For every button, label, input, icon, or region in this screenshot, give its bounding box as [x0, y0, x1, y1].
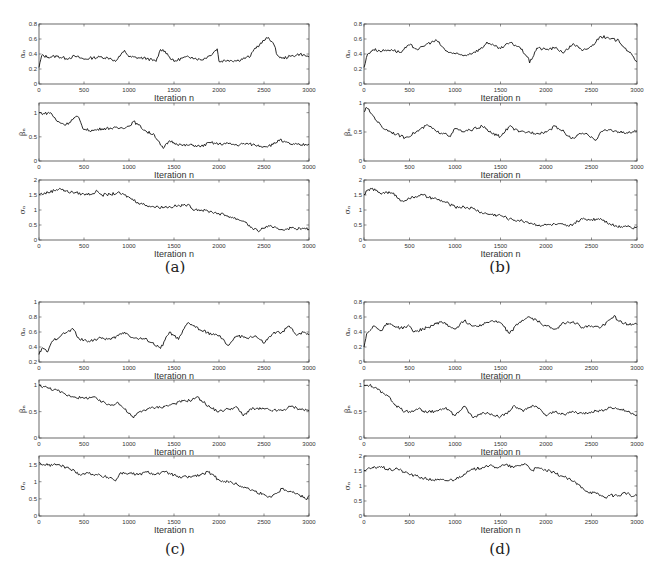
axes-box — [39, 302, 309, 362]
y-axis-label: αₙ — [343, 327, 352, 336]
y-tick-label: 1 — [34, 479, 38, 485]
y-tick-label: 1 — [34, 110, 38, 116]
x-tick-label: 500 — [79, 519, 90, 525]
y-tick-label: 0.5 — [354, 409, 363, 415]
x-tick-label: 3000 — [630, 519, 644, 525]
x-tick-label: 0 — [362, 164, 366, 170]
x-tick-label: 0 — [362, 243, 366, 249]
x-tick-label: 2500 — [257, 519, 271, 525]
x-tick-label: 3000 — [630, 365, 644, 371]
x-axis-label: Iteration n — [154, 170, 194, 180]
y-tick-label: 0.6 — [354, 36, 363, 42]
y-tick-label: 0.2 — [354, 344, 363, 350]
y-tick-label: 0.5 — [29, 222, 38, 228]
x-tick-label: 2000 — [212, 243, 226, 249]
x-tick-label: 0 — [362, 441, 366, 447]
x-tick-label: 2000 — [539, 441, 553, 447]
y-tick-label: 0.8 — [29, 314, 38, 320]
caption-c: (c) — [145, 540, 205, 558]
x-tick-label: 2000 — [212, 164, 226, 170]
y-tick-label: 1 — [359, 483, 363, 489]
x-tick-label: 1000 — [448, 164, 462, 170]
x-tick-label: 3000 — [630, 243, 644, 249]
y-tick-label: 0.8 — [354, 299, 363, 305]
x-tick-label: 2500 — [585, 441, 599, 447]
axes-box — [39, 103, 309, 161]
y-axis-label: σₙ — [343, 481, 352, 490]
x-tick-label: 500 — [79, 87, 90, 93]
axes-box — [39, 456, 309, 516]
y-tick-label: 0.8 — [29, 21, 38, 27]
y-tick-label: 0.2 — [354, 66, 363, 72]
subplot-c-2: 05001000150020002500300000.51βₙIteration… — [18, 380, 316, 457]
y-tick-label: 0.5 — [354, 498, 363, 504]
x-tick-label: 2000 — [539, 365, 553, 371]
caption-d: (d) — [470, 540, 530, 558]
axes-box — [364, 456, 637, 516]
x-tick-label: 2000 — [212, 441, 226, 447]
y-tick-label: 0.4 — [29, 344, 38, 350]
x-tick-label: 2500 — [585, 365, 599, 371]
axes-box — [39, 180, 309, 240]
x-tick-label: 500 — [404, 519, 415, 525]
x-tick-label: 2000 — [539, 87, 553, 93]
x-tick-label: 0 — [37, 164, 41, 170]
x-axis-label: Iteration n — [480, 371, 520, 381]
y-axis-label: σₙ — [343, 205, 352, 214]
x-tick-label: 500 — [79, 441, 90, 447]
y-tick-label: 2 — [359, 453, 363, 459]
x-tick-label: 1000 — [122, 441, 136, 447]
x-tick-label: 3000 — [302, 519, 316, 525]
x-tick-label: 2000 — [212, 87, 226, 93]
x-axis-label: Iteration n — [154, 93, 194, 103]
y-axis-label: αₙ — [343, 49, 352, 58]
y-tick-label: 0.5 — [29, 496, 38, 502]
x-tick-label: 2500 — [257, 87, 271, 93]
x-tick-label: 2500 — [585, 164, 599, 170]
x-tick-label: 500 — [79, 243, 90, 249]
x-tick-label: 2500 — [257, 365, 271, 371]
x-axis-label: Iteration n — [480, 170, 520, 180]
subplot-a-2: 05001000150020002500300000.51βₙIteration… — [18, 103, 316, 180]
x-tick-label: 500 — [79, 164, 90, 170]
caption-a: (a) — [145, 258, 205, 276]
y-tick-label: 0.5 — [354, 129, 363, 135]
y-tick-label: 0.6 — [354, 314, 363, 320]
x-axis-label: Iteration n — [154, 525, 194, 535]
x-tick-label: 1000 — [448, 519, 462, 525]
y-tick-label: 1 — [359, 100, 363, 106]
x-tick-label: 0 — [37, 243, 41, 249]
y-axis-label: βₙ — [18, 127, 27, 136]
x-tick-label: 1000 — [122, 164, 136, 170]
x-axis-label: Iteration n — [480, 525, 520, 535]
x-tick-label: 2000 — [539, 164, 553, 170]
y-tick-label: 1.5 — [29, 462, 38, 468]
y-tick-label: 0.2 — [29, 359, 38, 365]
y-tick-label: 0.6 — [29, 329, 38, 335]
axes-box — [39, 24, 309, 84]
y-tick-label: 1 — [34, 299, 38, 305]
x-axis-label: Iteration n — [480, 93, 520, 103]
y-tick-label: 1.5 — [354, 192, 363, 198]
y-tick-label: 0.4 — [354, 329, 363, 335]
y-axis-label: σₙ — [18, 481, 27, 490]
x-tick-label: 0 — [37, 87, 41, 93]
subplot-c-3: 05001000150020002500300000.511.5σₙIterat… — [18, 456, 316, 535]
y-axis-label: βₙ — [343, 404, 352, 413]
subplot-b-3: 05001000150020002500300000.511.52σₙItera… — [343, 177, 644, 259]
y-tick-label: 0.2 — [29, 66, 38, 72]
y-tick-label: 1.5 — [29, 192, 38, 198]
x-tick-label: 2000 — [212, 519, 226, 525]
x-tick-label: 2500 — [585, 87, 599, 93]
x-tick-label: 0 — [362, 365, 366, 371]
x-tick-label: 2500 — [585, 519, 599, 525]
subplot-b-2: 05001000150020002500300000.51βₙIteration… — [343, 100, 644, 180]
y-tick-label: 1.5 — [354, 468, 363, 474]
x-tick-label: 3000 — [302, 441, 316, 447]
subplot-d-1: 05001000150020002500300000.20.40.60.8αₙI… — [343, 299, 644, 381]
x-tick-label: 2000 — [212, 365, 226, 371]
x-tick-label: 500 — [404, 87, 415, 93]
x-tick-label: 0 — [37, 441, 41, 447]
x-tick-label: 0 — [362, 87, 366, 93]
x-tick-label: 3000 — [302, 365, 316, 371]
